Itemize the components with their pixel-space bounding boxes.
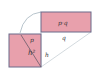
guide-line xyxy=(41,32,91,67)
bottom-label: q xyxy=(62,34,66,42)
square-h2 xyxy=(9,34,41,67)
rect-label: p·q xyxy=(58,19,68,27)
arc-guide xyxy=(20,12,41,33)
geometry-diagram: h² p h p·q q xyxy=(0,0,101,74)
square-label: h² xyxy=(28,49,36,57)
side-label: h xyxy=(45,51,49,58)
diag-label: p xyxy=(30,36,34,44)
